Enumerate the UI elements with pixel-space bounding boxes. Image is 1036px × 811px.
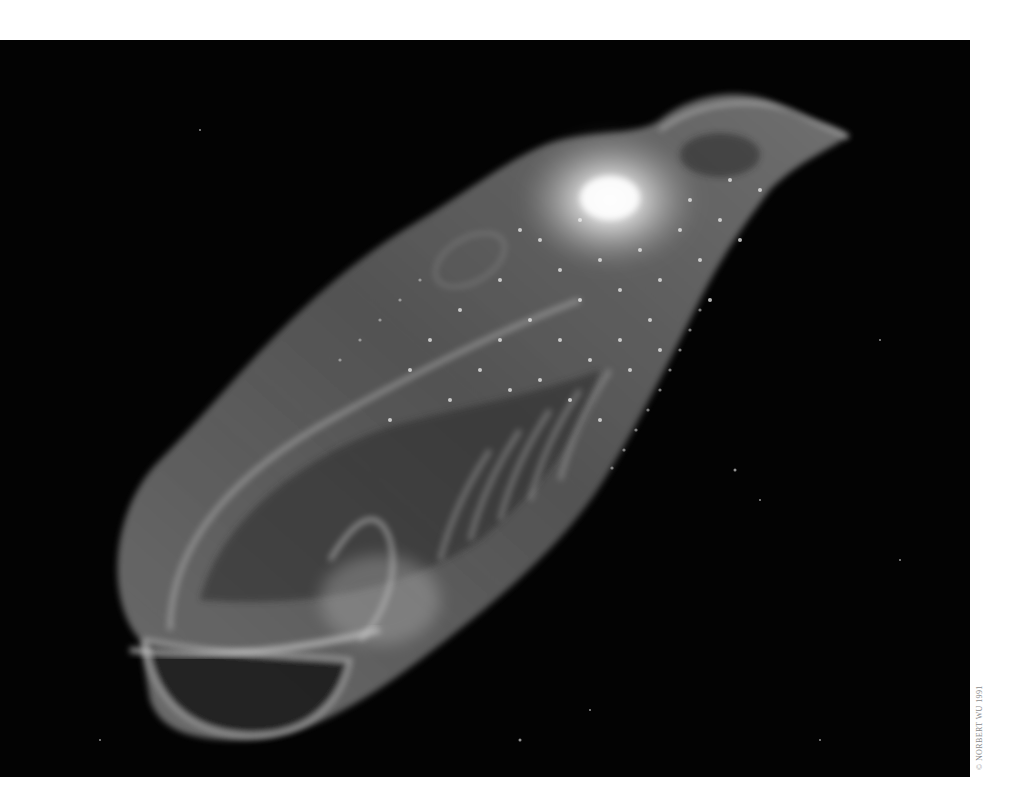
gelatinous-creature-illustration	[0, 40, 970, 777]
photo-credit: © NORBERT WU 1991	[975, 685, 984, 770]
photograph	[0, 40, 970, 777]
